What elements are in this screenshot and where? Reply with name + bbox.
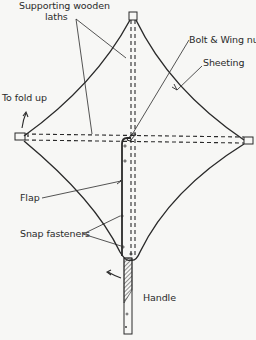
horizontal-lath-right-end [244,137,253,144]
label-bolt-wing-nut: Bolt & Wing nut [189,34,256,45]
handle [124,258,132,334]
flap [122,138,131,256]
diagram-canvas [0,0,256,340]
arrowheads [117,84,177,184]
handle-fold-arrow-icon [107,270,121,278]
vertical-lath-top-end [129,12,137,20]
label-supporting-laths-2: laths [45,11,68,22]
lath-end-rivet-left [27,135,29,137]
fold-up-arrow-icon [22,112,28,128]
label-sheeting: Sheeting [203,57,244,68]
label-to-fold-up: To fold up [2,92,47,103]
label-flap: Flap [20,192,40,203]
label-supporting-laths-1: Supporting wooden [19,0,110,11]
label-handle: Handle [143,292,176,303]
horizontal-lath-left-end [15,133,25,140]
label-snap-fasteners: Snap fasteners [20,228,90,239]
